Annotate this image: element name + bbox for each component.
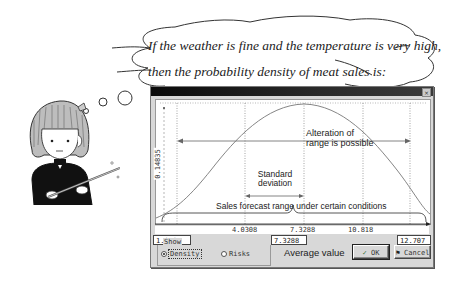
radio-unselected-icon	[221, 251, 227, 257]
thought-line-2: then the probability density of meat sal…	[148, 64, 386, 80]
risks-radio[interactable]: Risks	[221, 250, 250, 258]
radio-selected-icon	[161, 251, 167, 257]
alteration-line-2: range is possible	[306, 138, 374, 148]
dialog-titlebar[interactable]: ×	[151, 87, 433, 96]
ok-button-label: OK	[371, 249, 379, 257]
max-value-field[interactable]: 12.707	[397, 235, 431, 245]
std-dev-annotation: Standard deviation	[250, 170, 300, 188]
ok-button[interactable]: ✓ OK	[353, 245, 389, 259]
y-max-label: 0.14835	[154, 148, 162, 180]
density-radio-label: Density	[169, 250, 201, 258]
thought-line-1: If the weather is fine and the temperatu…	[148, 38, 441, 54]
average-value-label: Average value	[284, 247, 345, 258]
density-dialog: ×	[150, 86, 434, 268]
alteration-line-1: Alteration of	[306, 128, 374, 138]
x-tick-1: 4.0308	[232, 226, 257, 234]
forecast-range-annotation: Sales forecast range under certain condi…	[216, 201, 387, 211]
close-icon[interactable]: ×	[422, 88, 431, 97]
cancel-button-label: Cancel	[404, 249, 429, 257]
girl-illustration	[20, 95, 120, 205]
density-chart: 0.14835 Alteration of range is possible …	[155, 99, 431, 225]
x-tick-3: 10.818	[348, 226, 373, 234]
cancel-icon: ⚑	[396, 249, 400, 257]
risks-radio-label: Risks	[229, 250, 250, 258]
check-icon: ✓	[363, 249, 367, 257]
mean-value-field[interactable]: 7.3288	[271, 235, 307, 245]
std-dev-line-2: deviation	[250, 179, 300, 188]
density-radio[interactable]: Density	[161, 250, 201, 258]
x-tick-2: 7.3288	[290, 226, 315, 234]
cancel-button[interactable]: ⚑ Cancel	[394, 245, 431, 259]
show-label: Show	[163, 238, 182, 246]
alteration-annotation: Alteration of range is possible	[306, 128, 374, 148]
